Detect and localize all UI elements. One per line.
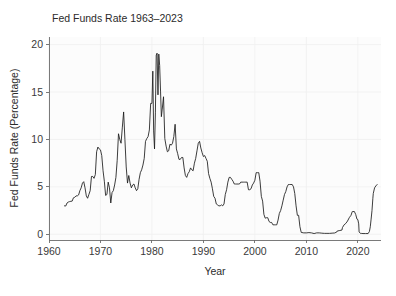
x-tick-label: 1960 [37,245,61,257]
y-axis-label: Fed Funds Rate (Percentage) [8,69,20,208]
y-tick-label: 15 [31,86,43,98]
x-tick-label: 1990 [192,245,216,257]
x-tick-label: 2020 [346,245,370,257]
x-tick-label: 1980 [140,245,164,257]
x-tick-label: 2000 [243,245,267,257]
y-axis-ticks: 05101520 [31,38,49,240]
chart-title: Fed Funds Rate 1963–2023 [52,12,183,24]
x-tick-label: 2010 [295,245,319,257]
plot-background [49,37,381,240]
x-tick-label: 1970 [89,245,113,257]
x-axis-label: Year [204,265,226,277]
y-tick-label: 0 [37,228,43,240]
y-tick-label: 10 [31,133,43,145]
x-axis-ticks: 1960197019801990200020102020 [37,240,369,257]
y-tick-label: 20 [31,38,43,50]
chart-figure: 05101520 1960197019801990200020102020 Fe… [0,0,396,296]
y-tick-label: 5 [37,180,43,192]
fed-funds-rate-line-chart: 05101520 1960197019801990200020102020 Fe… [0,0,396,296]
